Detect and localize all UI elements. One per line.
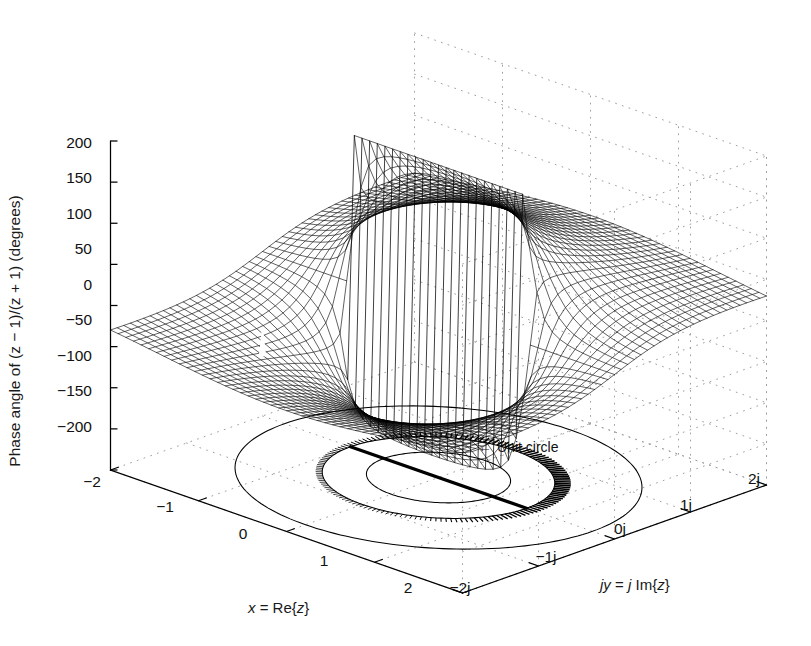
- z-tick-label: 200: [66, 134, 92, 151]
- z-tick-label: 0: [83, 276, 92, 293]
- unit-circle-annotation: ← Unit circle: [478, 439, 559, 455]
- x-axis-title-text: x = Re{z}: [247, 599, 309, 616]
- surface-plot-canvas: 200150100500−50−100−150−200−2−1012−2j−1j…: [0, 0, 811, 646]
- x-tick-label: −2: [83, 473, 101, 490]
- y-axis-title: jy = j Im{z}: [598, 576, 670, 593]
- z-tick-label: −150: [57, 382, 92, 399]
- y-axis-title-text: jy = j Im{z}: [598, 576, 670, 593]
- x-tick-label: 2: [404, 579, 413, 596]
- y-tick-label: 0j: [614, 520, 626, 537]
- x-tick-label: 0: [239, 525, 248, 542]
- y-tick-label: −2j: [449, 579, 470, 596]
- z-tick-label: 50: [75, 240, 93, 257]
- y-tick-label: 2j: [748, 470, 760, 487]
- z-tick-label: 100: [66, 205, 92, 222]
- z-tick-label: 150: [66, 169, 92, 186]
- x-axis-title: x = Re{z}: [247, 599, 309, 616]
- y-tick-label: −1j: [535, 548, 556, 565]
- z-tick-label: −50: [66, 311, 93, 328]
- unit-circle-arrow-icon: ←: [478, 439, 492, 455]
- z-tick-label: −200: [57, 418, 92, 435]
- z-tick-label: −100: [57, 347, 92, 364]
- x-tick-label: −1: [156, 498, 174, 515]
- figure-background: [0, 0, 811, 646]
- x-tick-label: 1: [320, 552, 329, 569]
- y-tick-label: 1j: [680, 496, 692, 513]
- phase-angle-surface-figure: 200150100500−50−100−150−200−2−1012−2j−1j…: [0, 0, 811, 646]
- unit-circle-label: Unit circle: [497, 439, 559, 455]
